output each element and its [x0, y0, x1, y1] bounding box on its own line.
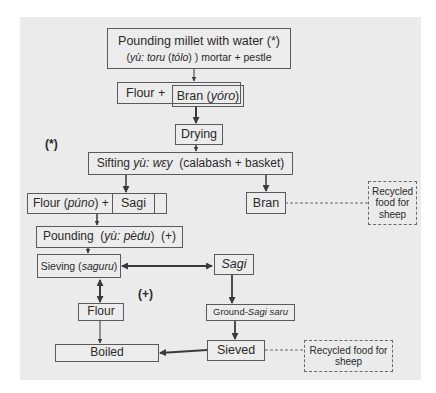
node-sifting: Sifting yù: wɛy (calabash + basket) [88, 152, 293, 175]
annotation-plus: (+) [138, 287, 153, 301]
node-bran-yoro: Bran (yóro) [172, 85, 244, 107]
node-ground-sagi: Ground-Sagi saru [206, 304, 295, 321]
annotation-star: (*) [45, 137, 58, 151]
node-drying: Drying [175, 124, 223, 145]
node-boiled: Boiled [55, 344, 159, 362]
node-bran: Bran [246, 192, 286, 214]
node-pounding-pedu: Pounding (yù: pèdu) (+) [36, 226, 183, 248]
node-recycled-food-2: Recycled food for sheep [304, 340, 393, 372]
node-sieving: Sieving (saguru) [37, 254, 121, 278]
node-pounding-millet-title: Pounding millet with water (*) [118, 34, 280, 48]
node-pounding-millet: Pounding millet with water (*) (yù: toru… [107, 28, 291, 69]
node-sagi: Sagi [214, 254, 254, 275]
node-flour: Flour [78, 303, 124, 321]
node-sieved: Sieved [207, 340, 265, 361]
node-sagi-inner: Sagi [112, 193, 155, 214]
node-recycled-food-1: Recycled food for sheep [368, 181, 417, 225]
node-pounding-millet-subtitle: (yù: toru (tólo) ) mortar + pestle [126, 51, 271, 63]
